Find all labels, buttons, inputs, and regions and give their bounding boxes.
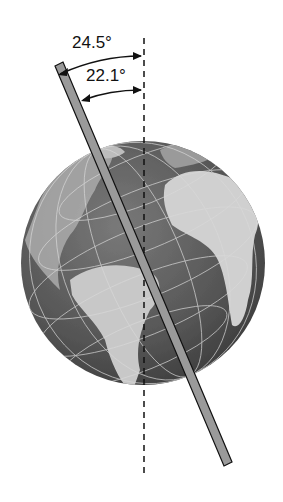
inner-angle-arc (83, 90, 141, 100)
outer-angle-label: 24.5° (72, 33, 112, 53)
outer-arrowhead-right (133, 52, 142, 60)
inner-arrowhead-left (81, 94, 90, 102)
inner-arrowhead-right (133, 86, 142, 94)
inner-angle-label: 22.1° (86, 66, 126, 86)
axial-tilt-diagram (0, 0, 283, 502)
